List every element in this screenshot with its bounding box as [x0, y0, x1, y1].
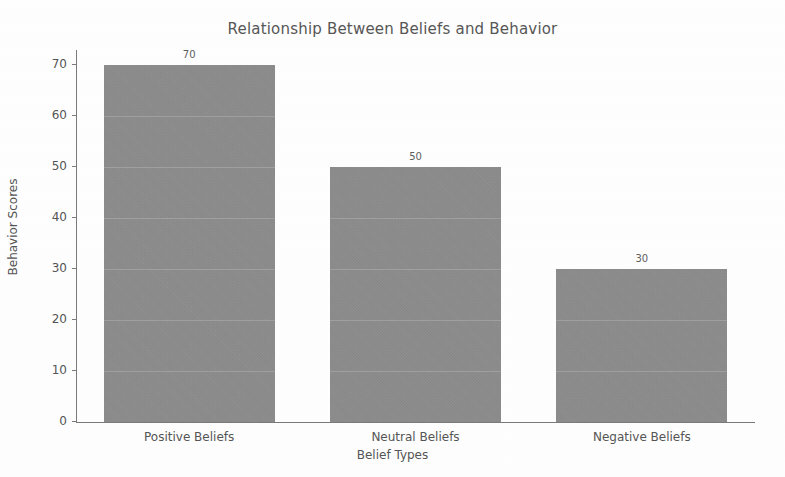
- bar-gridline: [104, 167, 275, 168]
- x-axis-tick-label: Neutral Beliefs: [326, 430, 506, 444]
- y-axis-tick-label: 50: [52, 158, 67, 175]
- y-axis-tick-label: 0: [59, 413, 67, 430]
- bar: [330, 167, 501, 422]
- y-axis-tick-label: 40: [52, 209, 67, 226]
- x-axis-label: Belief Types: [0, 448, 785, 462]
- bar-value-label: 70: [149, 49, 229, 60]
- bar-gridline: [330, 320, 501, 321]
- bar-gridline: [556, 371, 727, 372]
- y-axis-tick-label: 70: [52, 56, 67, 73]
- bar-gridline: [330, 371, 501, 372]
- bar-value-label: 30: [602, 253, 682, 264]
- x-axis-tick-label: Negative Beliefs: [552, 430, 732, 444]
- bar-gridline: [104, 269, 275, 270]
- bar-gridline: [104, 218, 275, 219]
- y-axis-tick-label: 60: [52, 107, 67, 124]
- bar-gridline: [556, 320, 727, 321]
- y-axis-label: Behavior Scores: [6, 7, 20, 447]
- y-axis-tick-label: 20: [52, 311, 67, 328]
- bar-gridline: [330, 218, 501, 219]
- bar-gridline: [330, 269, 501, 270]
- x-axis-tick-label: Positive Beliefs: [99, 430, 279, 444]
- y-axis-tick-label: 10: [52, 362, 67, 379]
- bar-gridline: [104, 116, 275, 117]
- bar-value-label: 50: [376, 151, 456, 162]
- bar: [556, 269, 727, 422]
- x-axis-spine: [76, 422, 755, 423]
- bar-chart-figure: Relationship Between Beliefs and Behavio…: [0, 0, 785, 477]
- plot-area: [76, 50, 755, 422]
- chart-title: Relationship Between Beliefs and Behavio…: [0, 20, 785, 38]
- bar-gridline: [104, 371, 275, 372]
- bar: [104, 65, 275, 422]
- bar-gridline: [104, 320, 275, 321]
- y-axis-tick-label: 30: [52, 260, 67, 277]
